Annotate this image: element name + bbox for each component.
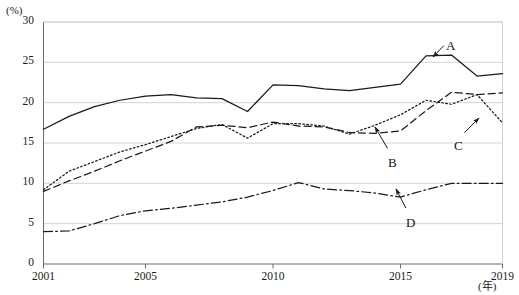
annotation-arrow-c: [464, 118, 479, 133]
x-tick-label: 2015: [378, 270, 424, 282]
series-label-a: A: [446, 38, 455, 54]
series-line-b: [44, 92, 503, 191]
series-line-c: [44, 95, 503, 190]
x-tick-label: 2010: [250, 270, 296, 282]
x-tick-label: 2019: [480, 270, 519, 282]
x-tick-label: 2005: [123, 270, 169, 282]
series-line-d: [44, 183, 503, 232]
series-label-d: D: [406, 215, 415, 231]
y-tick-label: 30: [10, 14, 34, 26]
x-tick-label: 2001: [21, 270, 67, 282]
axis-ticks: [44, 264, 503, 269]
y-tick-label: 25: [10, 54, 34, 66]
series-label-b: B: [388, 155, 397, 171]
annotation-arrow-d: [396, 189, 406, 208]
y-tick-label: 15: [10, 135, 34, 147]
y-tick-label: 0: [10, 256, 34, 268]
annotation-arrow-b: [375, 127, 387, 148]
y-tick-label: 20: [10, 95, 34, 107]
series-label-c: C: [454, 138, 463, 154]
y-tick-label: 10: [10, 175, 34, 187]
gridlines: [44, 22, 503, 224]
series-line-a: [44, 55, 503, 129]
y-tick-label: 5: [10, 216, 34, 228]
